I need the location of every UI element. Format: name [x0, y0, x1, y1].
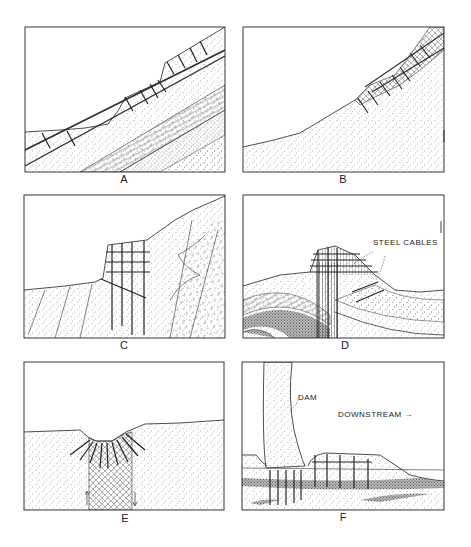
panel-label-a: A [120, 173, 127, 185]
panel-label-b: B [339, 173, 346, 185]
panel-label-d: D [341, 339, 349, 351]
panel-label-c: C [120, 339, 128, 351]
panel-e-drawing [24, 420, 224, 510]
panel-label-e: E [121, 512, 128, 524]
panel-a-drawing [25, 27, 225, 172]
steel-cables-annotation: STEEL CABLES [373, 238, 438, 247]
panel-c-drawing [24, 196, 225, 338]
figure-canvas [0, 0, 471, 547]
dam-annotation: DAM [298, 393, 317, 402]
panel-label-f: F [340, 511, 347, 523]
downstream-annotation: DOWNSTREAM → [338, 410, 413, 419]
panel-f-drawing [242, 362, 444, 510]
panel-d-drawing [243, 246, 444, 338]
panel-b-drawing [243, 27, 444, 172]
